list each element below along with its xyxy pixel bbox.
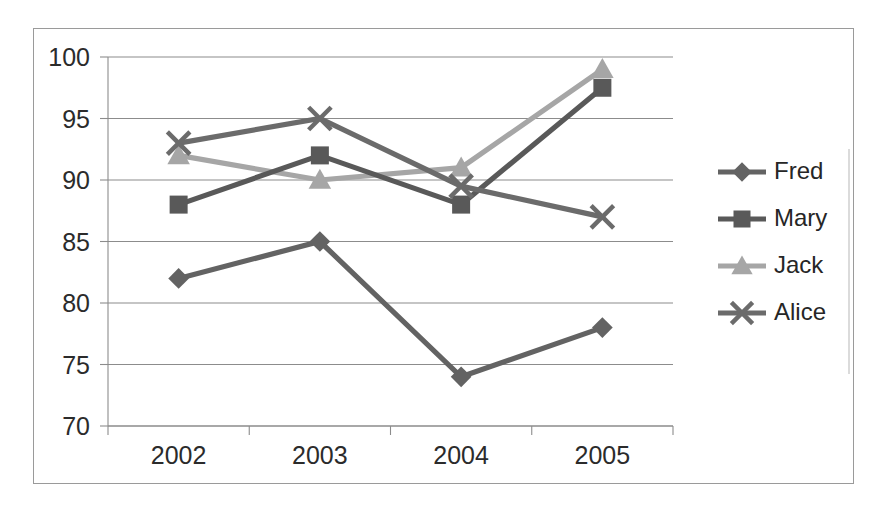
legend-item-label: Mary bbox=[774, 204, 827, 231]
square-marker[interactable] bbox=[452, 196, 470, 214]
square-marker[interactable] bbox=[593, 79, 611, 97]
plot-background bbox=[34, 29, 853, 483]
y-axis-tick-label: 85 bbox=[62, 228, 90, 256]
legend-item-label: Alice bbox=[774, 298, 826, 325]
x-axis-tick-label: 2005 bbox=[575, 441, 631, 469]
y-axis-tick-label: 70 bbox=[62, 412, 90, 440]
y-axis-tick-label: 100 bbox=[48, 43, 90, 71]
x-axis-tick-label: 2003 bbox=[292, 441, 348, 469]
legend-item-label: Jack bbox=[774, 251, 824, 278]
square-marker[interactable] bbox=[734, 211, 751, 228]
line-chart[interactable]: 707580859095100 2002200320042005 FredMar… bbox=[34, 29, 853, 483]
screenshot-root: 707580859095100 2002200320042005 FredMar… bbox=[0, 0, 892, 507]
y-axis-tick-label: 95 bbox=[62, 105, 90, 133]
chart-frame: 707580859095100 2002200320042005 FredMar… bbox=[33, 28, 854, 484]
square-marker[interactable] bbox=[170, 196, 188, 214]
x-axis-tick-label: 2002 bbox=[151, 441, 207, 469]
x-axis-tick-label: 2004 bbox=[433, 441, 489, 469]
y-axis-tick-label: 80 bbox=[62, 289, 90, 317]
y-axis-tick-label: 75 bbox=[62, 351, 90, 379]
legend-item-label: Fred bbox=[774, 157, 823, 184]
y-axis-tick-label: 90 bbox=[62, 166, 90, 194]
square-marker[interactable] bbox=[311, 146, 329, 164]
